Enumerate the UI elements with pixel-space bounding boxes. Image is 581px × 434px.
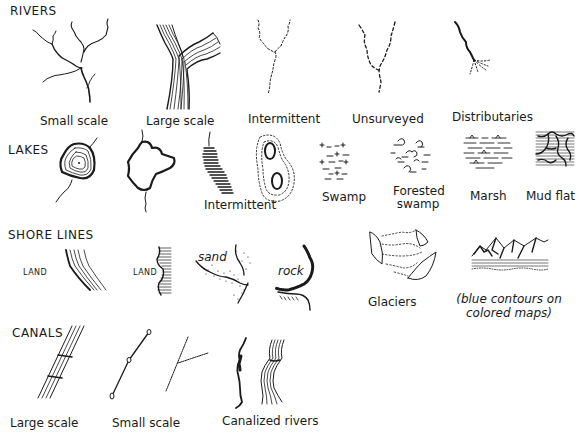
- river-small-scale-icon: [28, 16, 118, 106]
- canal-small-scale-icon: [105, 328, 153, 406]
- river-large-scale-icon: [155, 22, 225, 112]
- swamp-icon: [313, 138, 363, 188]
- shoreline-contoured-icon: [64, 248, 109, 298]
- glaciers-label: Glaciers: [368, 295, 417, 309]
- canal-large-scale-icon: [34, 324, 84, 402]
- marsh-icon: [462, 130, 517, 175]
- swamp-label: Swamp: [322, 190, 366, 204]
- mud-flat-icon: [534, 126, 578, 171]
- shoreline-sand-icon: [194, 243, 260, 309]
- glacier-relief-label-line1: (blue contours on: [440, 292, 578, 306]
- river-intermittent-icon: [255, 18, 315, 108]
- marsh-label: Marsh: [470, 189, 507, 203]
- river-distributaries-label: Distributaries: [452, 110, 533, 124]
- river-small-scale-label: Small scale: [40, 114, 108, 128]
- shoreline-rock-icon: [274, 244, 322, 314]
- river-unsurveyed-icon: [357, 20, 407, 110]
- lake-large-scale-icon: [124, 128, 179, 213]
- glacier-contours-icon: [368, 228, 438, 286]
- forested-swamp-label: Forested swamp: [393, 185, 443, 211]
- lakes-heading: LAKES: [8, 143, 49, 157]
- river-large-scale-label: Large scale: [146, 114, 215, 128]
- mud-flat-label: Mud flat: [526, 189, 575, 203]
- shore-lines-heading: SHORE LINES: [8, 228, 94, 242]
- lake-intermittent-label: Intermittent: [204, 198, 276, 212]
- river-intermittent-label: Intermittent: [248, 112, 320, 126]
- canalized-rivers-label: Canalized rivers: [222, 414, 318, 428]
- forested-swamp-icon: [388, 135, 443, 185]
- lake-intermittent-contour-icon: [252, 133, 298, 205]
- lake-small-scale-icon: [52, 136, 102, 206]
- canal-small-scale-label: Small scale: [112, 416, 180, 430]
- shoreline-hachured-icon: [155, 245, 175, 297]
- forested-swamp-label-line2: swamp: [393, 198, 443, 211]
- glacier-relief-label: (blue contours on colored maps): [440, 292, 578, 320]
- canal-small-scale-dotted-icon: [164, 335, 214, 395]
- river-unsurveyed-label: Unsurveyed: [352, 112, 424, 126]
- glacier-relief-icon: [470, 234, 550, 272]
- shoreline-hachured-land-label: LAND: [133, 268, 157, 277]
- glacier-relief-label-line2: colored maps): [440, 306, 578, 320]
- canal-large-scale-label: Large scale: [10, 416, 79, 430]
- river-distributaries-icon: [453, 20, 523, 90]
- shoreline-contoured-land-label: LAND: [23, 268, 47, 277]
- canalized-rivers-icon: [228, 336, 288, 412]
